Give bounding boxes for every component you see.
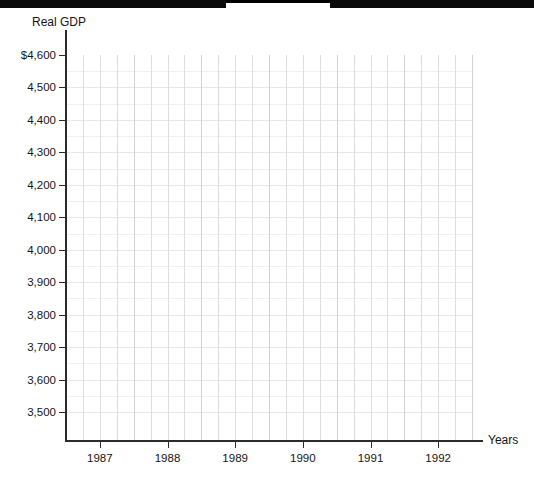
y-axis-tick-label-text: 3,600 (4, 374, 56, 386)
y-axis-tick-label-text: 3,800 (4, 309, 56, 321)
y-axis-tick-label-text: 3,500 (4, 406, 56, 418)
y-axis-tick-label-text: 4,100 (4, 211, 56, 223)
gridline-vertical (387, 55, 388, 440)
y-axis-tick (59, 120, 67, 121)
x-axis-tick (438, 441, 439, 448)
gridline-vertical (235, 55, 236, 440)
gridline-vertical-major (134, 55, 135, 440)
y-axis-tick-label-text: $4,600 (4, 49, 56, 61)
y-axis-tick-label-text: 4,000 (4, 244, 56, 256)
gridline-vertical (286, 55, 287, 440)
y-axis-tick (59, 87, 67, 88)
x-axis-tick-label: 1989 (205, 452, 265, 465)
gridline-vertical (455, 55, 456, 440)
y-axis-tick-label: 4,000 (0, 244, 56, 256)
y-axis-tick-label: 4,100 (0, 211, 56, 223)
x-axis-tick-label: 1992 (408, 452, 468, 465)
x-axis-tick (303, 441, 304, 448)
y-axis-tick-label-text: 4,200 (4, 179, 56, 191)
y-axis-tick (59, 152, 67, 153)
y-axis-tick-label-text: 3,700 (4, 341, 56, 353)
y-axis-tick-label: 4,500 (0, 81, 56, 93)
y-axis-tick-label-text: 3,900 (4, 276, 56, 288)
y-axis-tick-label: 3,600 (0, 374, 56, 386)
gridline-vertical (151, 55, 152, 440)
y-axis-tick (59, 282, 67, 283)
y-axis-tick (59, 380, 67, 381)
x-axis-tick (168, 441, 169, 448)
y-axis-tick-label-text: 4,300 (4, 146, 56, 158)
y-axis-tick-label: 3,800 (0, 309, 56, 321)
y-axis-tick (59, 250, 67, 251)
y-axis-tick (59, 315, 67, 316)
gridline-vertical (371, 55, 372, 440)
gridline-vertical (252, 55, 253, 440)
gridline-vertical (168, 55, 169, 440)
x-axis-tick-label: 1991 (341, 452, 401, 465)
gridline-vertical (438, 55, 439, 440)
gridline-vertical-major (404, 55, 405, 440)
y-axis-tick (59, 217, 67, 218)
y-axis-tick (59, 185, 67, 186)
y-axis-tick-label: 4,400 (0, 114, 56, 126)
gridline-vertical (303, 55, 304, 440)
y-axis-title: Real GDP (32, 15, 86, 29)
gridline-vertical (184, 55, 185, 440)
bleed-through-watermark-bottom (60, 470, 480, 485)
x-axis-tick-label: 1987 (70, 452, 130, 465)
y-axis-tick-label-text: 4,500 (4, 81, 56, 93)
y-axis-tick-label: 3,700 (0, 341, 56, 353)
gridline-vertical-major (472, 55, 473, 440)
y-axis-tick (59, 412, 67, 413)
gridline-vertical-major (337, 55, 338, 440)
y-axis-tick-label-text: 4,400 (4, 114, 56, 126)
x-axis-tick (371, 441, 372, 448)
gridline-vertical (100, 55, 101, 440)
x-axis-tick-label: 1990 (273, 452, 333, 465)
y-axis-tick (59, 347, 67, 348)
x-axis-tick (235, 441, 236, 448)
gridline-vertical (117, 55, 118, 440)
gridline-vertical (218, 55, 219, 440)
y-axis-tick (59, 55, 67, 56)
x-axis-title: Years (488, 433, 518, 447)
y-axis-tick-label: 3,500 (0, 406, 56, 418)
y-axis-tick-label: 4,200 (0, 179, 56, 191)
gridline-vertical-major (269, 55, 270, 440)
real-gdp-blank-graph: $4,6004,5004,4004,3004,2004,1004,0003,90… (0, 0, 534, 485)
gridline-vertical (421, 55, 422, 440)
x-axis-line (65, 440, 483, 442)
y-axis-tick-label: $4,600 (0, 49, 56, 61)
x-axis-tick-label: 1988 (138, 452, 198, 465)
x-axis-tick (100, 441, 101, 448)
gridline-vertical-major (201, 55, 202, 440)
plot-area (66, 55, 472, 440)
y-axis-tick-label: 3,900 (0, 276, 56, 288)
gridline-vertical (83, 55, 84, 440)
gridline-vertical (354, 55, 355, 440)
gridline-vertical (320, 55, 321, 440)
y-axis-tick-label: 4,300 (0, 146, 56, 158)
